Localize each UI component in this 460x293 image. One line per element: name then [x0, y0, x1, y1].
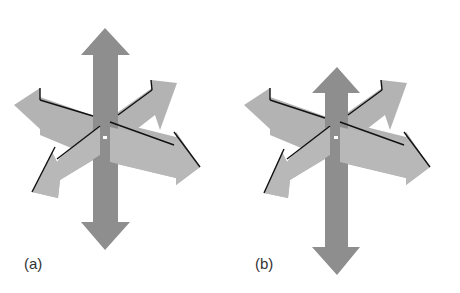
edge-line: [381, 80, 382, 90]
vertical-axis-arrow: [312, 67, 360, 275]
panel-label-a: (a): [24, 255, 42, 272]
axes-diagram-a: [0, 0, 230, 293]
axes-diagram-b: [230, 0, 460, 293]
panel-a: (a): [0, 0, 230, 293]
panel-label-b: (b): [255, 255, 273, 272]
origin-dot: [103, 136, 107, 139]
edge-line: [151, 80, 152, 90]
panel-b: (b): [230, 0, 460, 293]
origin-dot: [334, 136, 338, 139]
